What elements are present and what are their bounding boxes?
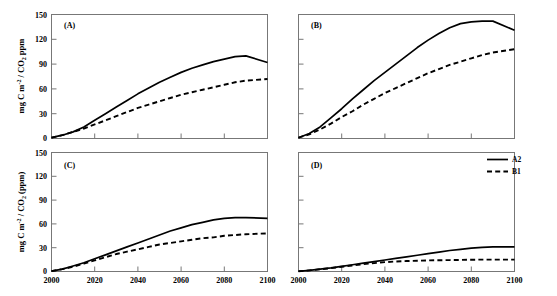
panel-c-y-ticks xyxy=(52,153,57,272)
panel-c-xticklabel-2060: 2060 xyxy=(173,276,189,285)
panel-c-yticklabel-150: 150 xyxy=(35,149,47,158)
panel-d-tag: (D) xyxy=(311,161,322,170)
panel-a-y-ticklabels: 0 30 60 90 120 150 xyxy=(35,11,47,144)
panel-c-y-ticklabels: 0 30 60 90 120 150 xyxy=(35,149,47,277)
panel-d-xticklabel-2040: 2040 xyxy=(377,276,393,285)
panel-c-series-b1 xyxy=(52,233,268,271)
panel-a-y-ticks xyxy=(52,15,57,139)
panel-c-frame xyxy=(52,153,268,272)
legend: A2 B1 xyxy=(487,155,521,176)
panel-a: 0 30 60 90 120 150 (A) mg C m-2 / CO2 pp… xyxy=(16,11,268,144)
panel-c-xticklabel-2020: 2020 xyxy=(87,276,103,285)
panel-d-xticklabel-2060: 2060 xyxy=(420,276,436,285)
panel-c-yticklabel-60: 60 xyxy=(39,220,47,229)
panel-c-ylabel-mid: / CO xyxy=(16,199,26,219)
panel-d-y-ticks xyxy=(299,176,304,271)
panel-c-ylabel: mg C m-2 / CO2 (ppm) xyxy=(16,172,27,253)
panel-d-xticklabel-2080: 2080 xyxy=(463,276,479,285)
panel-c-yticklabel-120: 120 xyxy=(35,172,47,181)
panel-d-xticklabel-2100: 2100 xyxy=(507,276,523,285)
figure-svg: 0 30 60 90 120 150 (A) mg C m-2 / CO2 pp… xyxy=(0,0,557,296)
figure-panel-grid: 0 30 60 90 120 150 (A) mg C m-2 / CO2 pp… xyxy=(0,0,557,296)
panel-b-series-b1 xyxy=(299,49,515,137)
panel-b: (B) xyxy=(299,15,515,139)
panel-a-ylabel: mg C m-2 / CO2 ppm xyxy=(16,39,27,114)
panel-b-frame xyxy=(299,15,515,139)
panel-a-ylabel-mid: / CO xyxy=(16,60,26,80)
panel-a-series-a2 xyxy=(52,56,268,138)
panel-c-x-ticklabels: 2000 2020 2040 2060 2080 2100 xyxy=(44,276,276,285)
panel-c-yticklabel-30: 30 xyxy=(39,244,47,253)
panel-a-x-ticks xyxy=(52,134,268,139)
panel-a-tag: (A) xyxy=(64,21,75,30)
panel-a-frame xyxy=(52,15,268,139)
panel-b-series-a2-line xyxy=(299,21,515,138)
panel-a-series-b1 xyxy=(52,79,268,138)
panel-b-x-ticks xyxy=(299,134,515,139)
panel-b-y-ticks xyxy=(299,39,304,138)
panel-a-yticklabel-60: 60 xyxy=(39,85,47,94)
panel-c-x-ticks xyxy=(52,267,268,272)
panel-a-ylabel-pre: mg C m xyxy=(16,85,26,114)
panel-d-xticklabel-2000: 2000 xyxy=(291,276,307,285)
panel-d-series-b1-line xyxy=(299,260,515,272)
panel-c-xticklabel-2100: 2100 xyxy=(260,276,276,285)
panel-c-xticklabel-2080: 2080 xyxy=(216,276,232,285)
panel-c-ylabel-post: (ppm) xyxy=(16,172,26,196)
legend-label-b1: B1 xyxy=(512,167,521,176)
panel-b-tag: (B) xyxy=(311,21,322,30)
panel-a-yticklabel-30: 30 xyxy=(39,110,47,119)
svg-text:mg C m-2 / CO2 (ppm): mg C m-2 / CO2 (ppm) xyxy=(16,172,27,253)
panel-c-xticklabel-2040: 2040 xyxy=(130,276,146,285)
panel-c: 0 30 60 90 120 150 2000 2020 2040 2060 2… xyxy=(16,149,276,285)
panel-a-yticklabel-0: 0 xyxy=(43,134,47,143)
panel-a-yticklabel-150: 150 xyxy=(35,11,47,20)
panel-d-x-ticklabels: 2000 2020 2040 2060 2080 2100 xyxy=(291,276,523,285)
panel-d-xticklabel-2020: 2020 xyxy=(334,276,350,285)
panel-c-xticklabel-2000: 2000 xyxy=(44,276,60,285)
panel-a-yticklabel-90: 90 xyxy=(39,60,47,69)
panel-a-ylabel-post: ppm xyxy=(16,39,26,58)
legend-label-a2: A2 xyxy=(512,155,521,164)
panel-d-frame xyxy=(299,153,515,272)
panel-d: 2000 2020 2040 2060 2080 2100 (D) A2 B1 xyxy=(291,153,523,285)
panel-a-yticklabel-120: 120 xyxy=(35,35,47,44)
panel-c-tag: (C) xyxy=(64,161,75,170)
panel-c-yticklabel-90: 90 xyxy=(39,196,47,205)
svg-text:mg C m-2 / CO2 ppm: mg C m-2 / CO2 ppm xyxy=(16,39,27,114)
panel-c-ylabel-pre: mg C m xyxy=(16,223,26,252)
